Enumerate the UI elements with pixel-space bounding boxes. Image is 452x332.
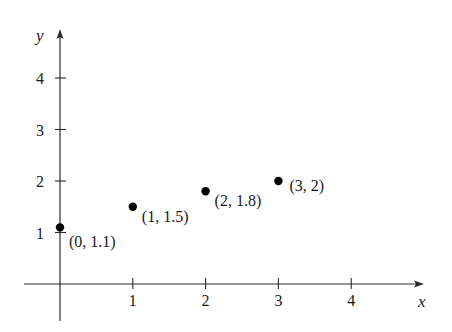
y-tick-label: 3 <box>36 122 44 139</box>
data-point-label: (3, 2) <box>289 177 324 195</box>
x-tick-label: 2 <box>202 292 210 309</box>
x-axis-label: x <box>417 292 426 311</box>
data-point <box>129 203 137 211</box>
data-point <box>274 177 282 185</box>
data-point <box>56 223 64 231</box>
x-tick-label: 4 <box>347 292 355 309</box>
y-tick-label: 2 <box>36 173 44 190</box>
x-tick-label: 1 <box>129 292 137 309</box>
y-tick-label: 4 <box>36 70 44 87</box>
x-tick-label: 3 <box>274 292 282 309</box>
data-point-label: (2, 1.8) <box>215 192 262 210</box>
y-axis-label: y <box>34 26 44 45</box>
data-point-label: (1, 1.5) <box>142 208 189 226</box>
data-point-label: (0, 1.1) <box>69 233 116 251</box>
axes: xy <box>24 26 426 321</box>
data-points: (0, 1.1)(1, 1.5)(2, 1.8)(3, 2) <box>56 177 324 252</box>
y-tick-label: 1 <box>36 225 44 242</box>
scatter-plot: xy 12341234 (0, 1.1)(1, 1.5)(2, 1.8)(3, … <box>0 0 452 332</box>
data-point <box>201 187 209 195</box>
